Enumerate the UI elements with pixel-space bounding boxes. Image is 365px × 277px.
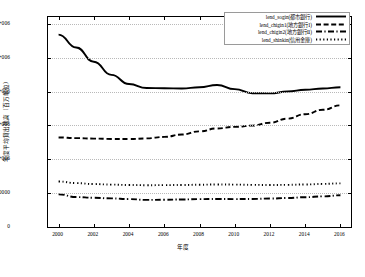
x-tick-mark	[305, 224, 306, 227]
y-tick-mark	[48, 24, 51, 25]
x-tick-mark	[129, 224, 130, 227]
legend: lend_sogin(都市銀行) lend_chigin1(地方銀行Ⅰ) len…	[224, 12, 350, 45]
plot-area	[47, 16, 352, 228]
legend-item[interactable]: lend_chigin2(地方銀行Ⅱ)	[225, 28, 349, 36]
y-tick-mark	[348, 92, 351, 93]
x-tick-label: 2000	[52, 231, 63, 237]
legend-label: lend_chigin1(地方銀行Ⅰ)	[259, 21, 312, 28]
x-tick-label: 2002	[87, 231, 98, 237]
y-tick-mark	[48, 227, 51, 228]
x-tick-mark	[94, 17, 95, 20]
y-tick-mark	[348, 159, 351, 160]
x-tick-mark	[270, 224, 271, 227]
x-tick-mark	[59, 17, 60, 20]
y-tick-mark	[348, 58, 351, 59]
y-tick-label: 2.5e+006	[0, 54, 10, 60]
y-tick-mark	[48, 125, 51, 126]
x-tick-label: 2014	[299, 231, 310, 237]
x-tick-mark	[235, 224, 236, 227]
series-line	[59, 181, 341, 185]
y-tick-mark	[48, 58, 51, 59]
y-tick-mark	[348, 193, 351, 194]
x-tick-label: 2006	[158, 231, 169, 237]
x-tick-mark	[164, 17, 165, 20]
gridline-horizontal	[48, 193, 351, 194]
y-tick-mark	[348, 227, 351, 228]
x-tick-label: 2008	[193, 231, 204, 237]
y-axis-title: 年度平均貸出残高（百万単位）	[2, 60, 10, 180]
gridline-horizontal	[48, 159, 351, 160]
y-tick-label: 1.5e+006	[0, 121, 10, 127]
legend-item[interactable]: lend_sogin(都市銀行)	[225, 13, 349, 21]
x-tick-mark	[129, 17, 130, 20]
gridline-horizontal	[48, 58, 351, 59]
y-tick-label: 2e+006	[0, 88, 10, 94]
x-tick-label: 2010	[228, 231, 239, 237]
x-axis-title: 年度	[0, 243, 365, 251]
gridline-horizontal	[48, 92, 351, 93]
legend-label: lend_chigin2(地方銀行Ⅱ)	[258, 28, 312, 35]
legend-line-sample-dotted	[315, 36, 347, 43]
x-tick-mark	[94, 224, 95, 227]
legend-line-sample-dashed	[315, 21, 347, 28]
y-tick-label: 500000	[0, 189, 10, 195]
x-tick-label: 2004	[123, 231, 134, 237]
legend-item[interactable]: lend_shinkin(信用金庫)	[225, 36, 349, 44]
x-tick-label: 2016	[334, 231, 345, 237]
series-line	[59, 194, 341, 200]
legend-item[interactable]: lend_chigin1(地方銀行Ⅰ)	[225, 21, 349, 29]
legend-line-sample-solid	[315, 13, 347, 20]
y-tick-mark	[48, 193, 51, 194]
series-line	[59, 105, 341, 139]
x-tick-mark	[59, 224, 60, 227]
x-tick-mark	[200, 17, 201, 20]
x-tick-mark	[164, 224, 165, 227]
y-tick-mark	[48, 159, 51, 160]
y-tick-label: 3e+006	[0, 20, 10, 26]
x-tick-mark	[340, 224, 341, 227]
x-tick-label: 2012	[264, 231, 275, 237]
legend-label: lend_sogin(都市銀行)	[266, 13, 312, 20]
gridline-horizontal	[48, 125, 351, 126]
y-tick-label: 0	[7, 223, 10, 229]
x-tick-mark	[200, 224, 201, 227]
legend-line-sample-dashdot	[315, 28, 347, 35]
legend-label: lend_shinkin(信用金庫)	[262, 36, 312, 43]
y-tick-mark	[348, 125, 351, 126]
series-lines	[48, 17, 351, 227]
y-tick-label: 1e+006	[0, 155, 10, 161]
chart-container: 年度平均貸出残高（百万単位） 05000001e+0061.5e+0062e+0…	[0, 0, 365, 277]
y-tick-mark	[48, 92, 51, 93]
